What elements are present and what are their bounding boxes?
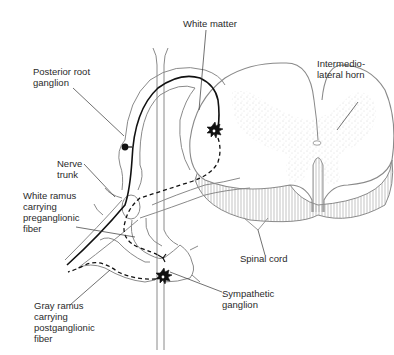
- nerve-trunk-label-line1: Nerve: [57, 158, 82, 169]
- posterior-root-ganglion-label-line2: ganglion: [33, 77, 69, 88]
- nerve-trunk-ring: [122, 195, 140, 219]
- intermediolateral-horn-label-line1: Intermedio-: [317, 58, 365, 69]
- white-ramus-leader: [76, 227, 135, 237]
- spinal-cord: [190, 63, 394, 255]
- central-canal: [313, 141, 321, 145]
- sympathetic-ganglion-leader: [170, 272, 222, 292]
- posterior-root-ganglion-label-line1: Posterior root: [33, 66, 90, 77]
- posterior-root-ganglion-leader: [73, 88, 124, 136]
- nerve-trunk-leader: [84, 164, 115, 197]
- sympathetic-ganglion-label-line1: Sympathetic: [222, 288, 274, 299]
- gray-ramus-label-line2: carrying: [34, 311, 68, 322]
- gray-ramus-label-line4: fiber: [34, 333, 52, 344]
- sympathetic-ganglion-label-line2: ganglion: [222, 299, 258, 310]
- gray-ramus-label-line1: Gray ramus: [34, 300, 84, 311]
- white-ramus-label-line2: carrying: [23, 201, 57, 212]
- white-ramus-label-line4: fiber: [23, 223, 41, 234]
- posterior-root-ganglion-cell: [122, 144, 129, 151]
- white-ramus-label-line1: White ramus: [23, 190, 76, 201]
- spinal-cord-leader: [258, 230, 265, 255]
- gray-ramus-label-line3: postganglionic: [34, 322, 95, 333]
- white-matter-label: White matter: [183, 18, 237, 29]
- white-ramus-label-line3: preganglionic: [23, 212, 80, 223]
- nerve-trunk-label-line2: trunk: [57, 169, 78, 180]
- spinal-cord-label: Spinal cord: [240, 253, 288, 264]
- intermediolateral-horn-label-line2: lateral horn: [317, 69, 365, 80]
- diagram: White matter Posterior root ganglion Int…: [0, 0, 394, 355]
